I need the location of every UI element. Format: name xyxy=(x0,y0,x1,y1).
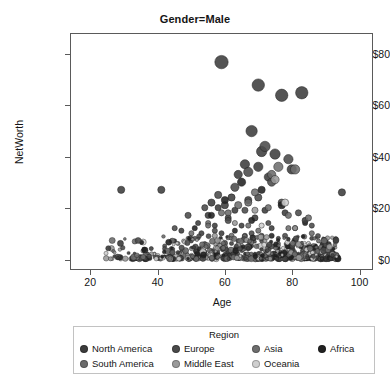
scatter-point xyxy=(292,226,297,231)
scatter-point xyxy=(212,223,217,228)
legend: Region North AmericaEuropeAsiaAfricaSout… xyxy=(73,326,375,374)
scatter-point xyxy=(221,241,225,245)
scatter-point xyxy=(187,257,190,260)
legend-item[interactable]: North America xyxy=(80,341,172,356)
scatter-point xyxy=(123,238,126,241)
legend-item[interactable]: Africa xyxy=(318,341,380,356)
scatter-point xyxy=(316,239,320,243)
scatter-point xyxy=(258,234,264,240)
scatter-point xyxy=(237,178,245,186)
chart-title: Gender=Male xyxy=(0,13,390,25)
scatter-point xyxy=(191,238,194,241)
legend-item-label: Middle East xyxy=(184,356,234,371)
scatter-point xyxy=(228,194,235,201)
legend-title: Region xyxy=(74,329,374,341)
scatter-point xyxy=(227,257,230,260)
scatter-point xyxy=(104,251,108,255)
legend-item[interactable]: Asia xyxy=(252,341,318,356)
scatter-point xyxy=(326,244,332,250)
scatter-point xyxy=(162,235,166,239)
scatter-point xyxy=(254,244,259,249)
scatter-point xyxy=(235,202,242,209)
scatter-point xyxy=(321,238,327,244)
scatter-point xyxy=(166,239,172,245)
scatter-point xyxy=(275,257,278,260)
scatter-point xyxy=(123,256,128,261)
legend-item-label: South America xyxy=(92,356,154,371)
scatter-point xyxy=(231,183,239,191)
scatter-point xyxy=(215,238,221,244)
plot-area xyxy=(70,33,373,270)
scatter-point xyxy=(208,199,215,206)
scatter-point xyxy=(271,175,279,183)
scatter-point xyxy=(215,246,220,251)
scatter-point xyxy=(162,250,166,254)
scatter-point xyxy=(305,215,311,221)
scatter-point xyxy=(242,207,248,213)
x-tick-label: 100 xyxy=(337,276,383,288)
legend-marker-icon xyxy=(252,345,260,353)
scatter-point xyxy=(116,256,119,259)
scatter-point xyxy=(266,220,271,225)
legend-entries: North AmericaEuropeAsiaAfricaSouth Ameri… xyxy=(74,341,374,371)
scatter-point xyxy=(246,223,251,228)
scatter-point xyxy=(206,223,211,228)
x-tick-label: 80 xyxy=(269,276,315,288)
legend-item-label: Oceania xyxy=(264,356,299,371)
scatter-point xyxy=(244,167,253,176)
scatter-point xyxy=(309,223,314,228)
x-tick-label: 60 xyxy=(202,276,248,288)
scatter-point xyxy=(206,234,211,239)
scatter-point xyxy=(195,238,198,241)
scatter-point xyxy=(172,226,177,231)
scatter-point xyxy=(296,255,302,261)
scatter-point xyxy=(329,257,333,261)
scatter-point xyxy=(251,189,258,196)
legend-item[interactable]: Europe xyxy=(172,341,252,356)
scatter-point xyxy=(149,247,153,251)
chart-figure: Gender=Male NetWorth $0$20$40$60$80 2040… xyxy=(0,0,390,382)
scatter-point xyxy=(265,249,269,253)
scatter-point xyxy=(118,186,125,193)
scatter-point xyxy=(254,162,263,171)
scatter-point xyxy=(108,257,112,261)
scatter-point xyxy=(281,254,284,257)
scatter-point xyxy=(109,237,115,243)
scatter-point xyxy=(172,243,175,246)
scatter-point xyxy=(158,186,165,193)
scatter-point xyxy=(187,237,190,240)
x-tick-label: 20 xyxy=(67,276,113,288)
scatter-point xyxy=(256,228,261,233)
scatter-point xyxy=(277,244,280,247)
scatter-point xyxy=(234,255,239,260)
scatter-point xyxy=(260,248,264,252)
scatter-point xyxy=(260,141,270,151)
scatter-point xyxy=(335,255,338,258)
legend-item[interactable]: Oceania xyxy=(252,356,318,371)
scatter-point xyxy=(221,196,228,203)
scatter-point xyxy=(218,210,224,216)
scatter-point xyxy=(127,251,130,254)
legend-item[interactable]: Middle East xyxy=(172,356,252,371)
scatter-point xyxy=(113,251,116,254)
scatter-point xyxy=(286,226,291,231)
scatter-point xyxy=(190,254,194,258)
scatter-point xyxy=(237,247,242,252)
scatter-point xyxy=(320,257,323,260)
scatter-point xyxy=(267,242,272,247)
scatter-point xyxy=(248,239,252,243)
scatter-point xyxy=(221,246,226,251)
scatter-point xyxy=(276,89,288,101)
scatter-point xyxy=(196,220,201,225)
scatter-point xyxy=(204,245,208,249)
scatter-point xyxy=(307,246,313,252)
scatter-point xyxy=(303,241,306,244)
scatter-point xyxy=(210,253,213,256)
scatter-point xyxy=(281,199,288,206)
scatter-point xyxy=(185,240,190,245)
x-tick-mark xyxy=(360,270,361,275)
legend-marker-icon xyxy=(80,345,88,353)
legend-item[interactable]: South America xyxy=(80,356,172,371)
legend-item-label: Europe xyxy=(184,341,215,356)
scatter-point xyxy=(331,253,335,257)
